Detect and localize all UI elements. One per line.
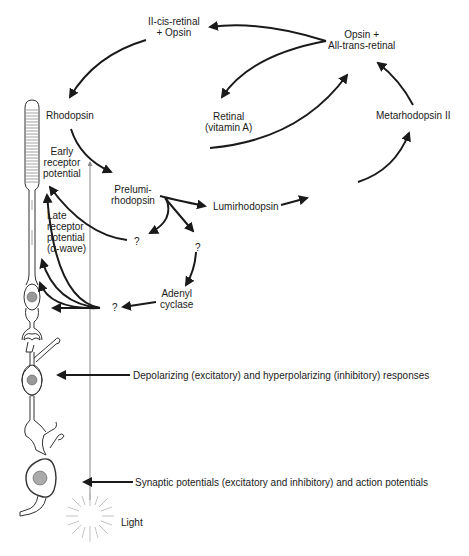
reaction-arrows <box>40 25 413 482</box>
label-line: (α-wave) <box>47 243 86 254</box>
node-adenyl-cyclase: Adenyl cyclase <box>160 288 193 310</box>
label-line: potential <box>47 232 86 243</box>
label-line: potential <box>43 168 81 179</box>
node-opsin-all-trans-retinal: Opsin + All-trans-retinal <box>328 29 395 51</box>
label-line: receptor <box>43 157 81 168</box>
node-label-line: Prelumi- <box>111 184 155 195</box>
light-label: Light <box>121 517 143 528</box>
node-unknown-2: ? <box>195 242 201 253</box>
bipolar-cell-icon <box>22 338 60 420</box>
light-sun-icon <box>66 494 114 542</box>
node-label-line: rhodopsin <box>111 195 155 206</box>
node-unknown-3: ? <box>112 302 118 313</box>
label-line: Early <box>43 146 81 157</box>
node-retinal-vitamin-a: Retinal (vitamin A) <box>205 111 252 133</box>
label-line: Late <box>47 210 86 221</box>
label-line: receptor <box>47 221 86 232</box>
late-receptor-potential-label: Late receptor potential (α-wave) <box>47 210 86 254</box>
node-label-line: Adenyl <box>160 288 193 299</box>
bipolar-response-label: Depolarizing (excitatory) and hyperpolar… <box>133 370 429 381</box>
ganglion-cell-icon <box>20 420 64 516</box>
node-11-cis-retinal-opsin: II-cis-retinal + Opsin <box>148 16 200 38</box>
node-label-line: cyclase <box>160 299 193 310</box>
node-label-line: II-cis-retinal <box>148 16 200 27</box>
phototransduction-diagram <box>0 0 469 556</box>
node-label-line: Opsin + <box>328 29 395 40</box>
node-label-line: (vitamin A) <box>205 122 252 133</box>
node-lumirhodopsin: Lumirhodopsin <box>213 201 279 212</box>
node-label-line: Retinal <box>205 111 252 122</box>
node-label-line: All-trans-retinal <box>328 40 395 51</box>
node-rhodopsin: Rhodopsin <box>46 110 94 121</box>
early-receptor-potential-label: Early receptor potential <box>43 146 81 179</box>
node-label-line: + Opsin <box>148 27 200 38</box>
node-prelumirhodopsin: Prelumi- rhodopsin <box>111 184 155 206</box>
ganglion-response-label: Synaptic potentials (excitatory and inhi… <box>135 477 428 488</box>
rod-cell-icon <box>22 100 42 340</box>
node-unknown-1: ? <box>134 236 140 247</box>
node-metarhodopsin-ii: Metarhodopsin II <box>376 110 451 121</box>
